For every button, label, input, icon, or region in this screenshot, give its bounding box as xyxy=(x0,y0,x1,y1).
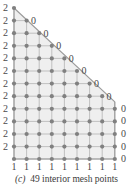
left-boundary-label: 2 xyxy=(1,3,10,13)
bottom-boundary-label: 1 xyxy=(47,162,56,172)
diagonal-boundary-label: 0 xyxy=(29,16,38,26)
left-boundary-label: 2 xyxy=(1,79,10,89)
left-boundary-label: 2 xyxy=(1,28,10,38)
bottom-boundary-label: 1 xyxy=(73,162,82,172)
mesh-diagram: 2 2 2 2 2 2 2 2 2 2 2 2 0 0 0 0 0 0 0 0 … xyxy=(0,0,133,170)
diagonal-boundary-label: 0 xyxy=(119,104,128,114)
diagonal-boundary-label: 0 xyxy=(67,54,76,64)
left-boundary-label: 2 xyxy=(1,116,10,126)
left-boundary-label: 2 xyxy=(1,129,10,139)
caption-tag: (c) xyxy=(15,174,26,184)
figure-caption: (c) 49 interior mesh points xyxy=(0,174,133,185)
left-boundary-label: 2 xyxy=(1,16,10,26)
left-boundary-label: 2 xyxy=(1,142,10,152)
left-boundary-label: 2 xyxy=(1,41,10,51)
diagonal-boundary-label: 0 xyxy=(92,79,101,89)
bottom-boundary-label: 1 xyxy=(10,162,19,172)
diagonal-boundary-label: 0 xyxy=(54,41,63,51)
right-boundary-label: 0 xyxy=(119,129,128,139)
bottom-boundary-label: 1 xyxy=(22,162,31,172)
left-boundary-label: 2 xyxy=(1,66,10,76)
left-boundary-label: 2 xyxy=(1,104,10,114)
left-boundary-label: 2 xyxy=(1,91,10,101)
right-boundary-label: 0 xyxy=(119,142,128,152)
caption-text: 49 interior mesh points xyxy=(30,174,118,184)
bottom-boundary-label: 1 xyxy=(60,162,69,172)
right-boundary-label: 0 xyxy=(119,154,128,164)
left-boundary-label: 2 xyxy=(1,53,10,63)
diagonal-boundary-label: 0 xyxy=(42,29,51,39)
diagonal-boundary-label: 0 xyxy=(79,66,88,76)
bottom-boundary-label: 1 xyxy=(85,162,94,172)
bottom-boundary-label: 1 xyxy=(98,162,107,172)
mesh-plot-svg xyxy=(0,0,133,170)
diagonal-boundary-label: 0 xyxy=(105,92,114,102)
figure-container: 2 2 2 2 2 2 2 2 2 2 2 2 0 0 0 0 0 0 0 0 … xyxy=(0,0,133,186)
bottom-boundary-label: 1 xyxy=(35,162,44,172)
bottom-boundary-label: 1 xyxy=(110,162,119,172)
right-boundary-label: 0 xyxy=(119,116,128,126)
